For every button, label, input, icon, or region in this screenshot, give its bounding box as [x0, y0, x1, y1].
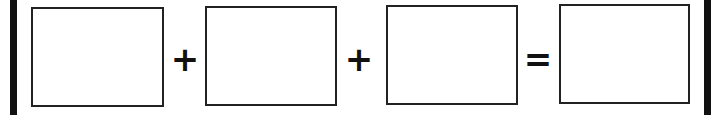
addend-box-1[interactable] [31, 7, 164, 107]
right-border-bar [704, 0, 711, 115]
left-border-bar [10, 0, 17, 115]
addend-box-3[interactable] [386, 5, 518, 105]
addend-box-2[interactable] [205, 6, 337, 106]
plus-sign-1: + [170, 42, 200, 76]
equals-sign: = [523, 42, 553, 76]
plus-sign-2: + [344, 42, 374, 76]
sum-box[interactable] [559, 4, 690, 104]
